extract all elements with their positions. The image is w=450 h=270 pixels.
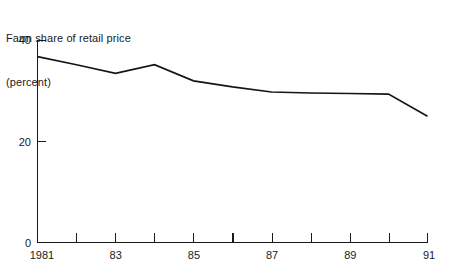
x-axis-label-87: 87	[266, 249, 278, 261]
data-series-line	[38, 57, 428, 117]
y-axis-label-40: 40	[19, 34, 31, 46]
y-axis-labels: 40 20 0	[19, 34, 31, 249]
y-axis-label-0: 0	[25, 237, 31, 249]
x-axis-ticks	[38, 233, 390, 243]
x-axis-label-1981: 1981	[30, 249, 54, 261]
x-axis-label-89: 89	[344, 249, 356, 261]
x-axis-labels: 1981 83 85 87 89 91	[30, 249, 435, 261]
line-chart-plot: 40 20 0 1981 83 85 87 89 91	[0, 0, 450, 270]
x-axis-label-91: 91	[423, 249, 435, 261]
chart-screenshot: Farm share of retail price (percent) 40	[0, 0, 450, 270]
x-axis-label-85: 85	[188, 249, 200, 261]
y-axis-label-20: 20	[19, 136, 31, 148]
x-axis-label-83: 83	[110, 249, 122, 261]
